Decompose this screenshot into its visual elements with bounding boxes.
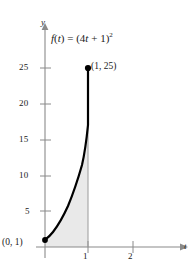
y-axis-label: y	[41, 18, 45, 27]
x-axis-label: t	[184, 242, 187, 251]
x-tick-label-1: 1	[83, 252, 88, 261]
shaded-area-under-curve	[45, 68, 88, 247]
y-tick-label-10: 10	[19, 171, 28, 180]
y-tick-label-15: 15	[19, 135, 28, 144]
y-tick-label-5: 5	[25, 207, 30, 216]
point-marker-origin	[42, 237, 48, 243]
y-tick-label-25: 25	[19, 63, 28, 72]
function-expression: f(t) = (4t + 1)2	[51, 32, 113, 44]
point-label-max: (1, 25)	[91, 62, 116, 72]
x-tick-label-2: 2	[128, 252, 133, 261]
point-label-origin: (0, 1)	[2, 238, 23, 248]
function-exponent: 2	[109, 31, 113, 39]
function-graph-figure: y t 25 20 15 10 5 1 2 (0, 1) (1, 25) f(t…	[0, 0, 196, 271]
y-tick-label-20: 20	[19, 99, 28, 108]
